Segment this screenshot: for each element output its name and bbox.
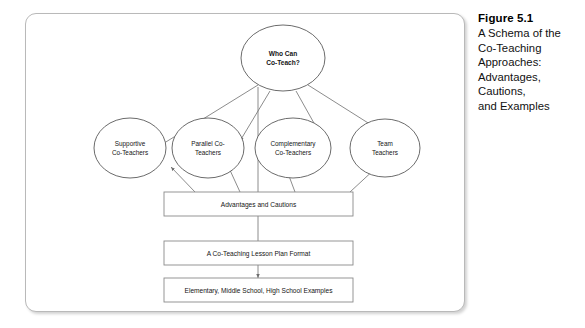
box-advantages-and-cautions[interactable]: Advantages and Cautions [164, 192, 353, 216]
node-label-line2: Co-Teachers [112, 149, 148, 156]
box-label: Elementary, Middle School, High School E… [185, 287, 334, 295]
caption-line-1: A Schema of the [478, 26, 582, 41]
caption-line-5: Cautions, [478, 84, 582, 99]
node-label-line2: Co-Teach? [266, 59, 300, 66]
caption-line-4: Advantages, [478, 70, 582, 85]
box-lesson-plan-format[interactable]: A Co-Teaching Lesson Plan Format [164, 241, 353, 265]
figure-caption-body: A Schema of the Co-Teaching Approaches: … [478, 26, 582, 114]
caption-line-2: Co-Teaching [478, 41, 582, 56]
node-label-line1: Parallel Co- [191, 140, 224, 147]
node-label-line1: Complementary [270, 140, 316, 148]
node-label-line1: Who Can [269, 50, 298, 57]
node-team-teachers[interactable]: Team Teachers [350, 119, 420, 177]
node-label-line1: Team [377, 140, 393, 147]
figure-page: Who Can Co-Teach? Supportive Co-Teachers… [0, 0, 585, 328]
figure-caption: Figure 5.1 A Schema of the Co-Teaching A… [478, 11, 582, 114]
node-label-line1: Supportive [115, 140, 146, 148]
caption-line-3: Approaches: [478, 55, 582, 70]
box-label: A Co-Teaching Lesson Plan Format [207, 250, 311, 258]
node-who-can-co-teach[interactable]: Who Can Co-Teach? [241, 25, 325, 91]
node-label-line2: Co-Teachers [275, 149, 311, 156]
node-supportive-co-teachers[interactable]: Supportive Co-Teachers [94, 118, 166, 178]
caption-line-6: and Examples [478, 99, 582, 114]
node-parallel-co-teachers[interactable]: Parallel Co- Teachers [172, 118, 244, 178]
node-label-line2: Teachers [372, 149, 398, 156]
node-complementary-co-teachers[interactable]: Complementary Co-Teachers [255, 118, 331, 178]
box-label: Advantages and Cautions [221, 201, 297, 209]
box-school-level-examples[interactable]: Elementary, Middle School, High School E… [164, 278, 353, 302]
node-label-line2: Teachers [195, 149, 221, 156]
figure-caption-title: Figure 5.1 [478, 11, 582, 25]
schema-diagram: Who Can Co-Teach? Supportive Co-Teachers… [25, 13, 465, 312]
